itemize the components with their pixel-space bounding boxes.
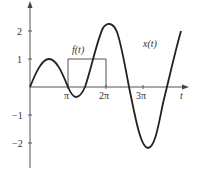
chart: 2 1 −1 −2 π 2π 3π t f(t) x(t): [0, 0, 204, 171]
y-tick-label-neg2: −2: [12, 138, 23, 149]
x-tick-label-3pi: 3π: [136, 90, 146, 101]
y-tick-label-1: 1: [17, 54, 22, 65]
y-tick-label-2: 2: [17, 26, 22, 37]
y-tick-label-neg1: −1: [12, 110, 23, 121]
f-curve-label: f(t): [72, 44, 85, 56]
y-axis-arrow-icon: [28, 1, 33, 8]
x-tick-label-pi: π: [64, 90, 69, 101]
x-curve-label: x(t): [142, 38, 158, 50]
x-axis-arrow-icon: [182, 85, 189, 90]
x-tick-label-2pi: 2π: [99, 90, 109, 101]
x-axis-label: t: [180, 90, 183, 101]
